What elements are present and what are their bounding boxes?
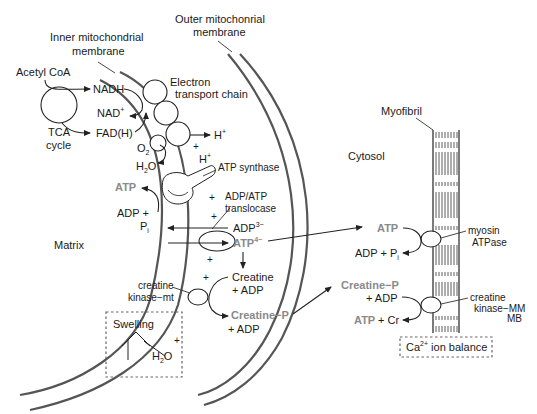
ck-mm-label-1: creatine <box>470 292 506 303</box>
atp-synthase <box>162 166 215 204</box>
o2-label: O2 <box>137 142 150 156</box>
creatine-kinase-mt <box>188 289 208 305</box>
plus-sign-2: + <box>211 211 217 222</box>
plus-sign-1: + <box>209 192 215 203</box>
plus-sign-0: + <box>193 141 199 152</box>
nadh-to-nad-arrow <box>124 89 143 116</box>
cytosol-creatine-p: Creatine−P <box>341 279 399 291</box>
creatine-kinase-mm <box>421 297 441 313</box>
atp-to-cytosol-arrow <box>268 227 362 241</box>
myosin-label-2: ATPase <box>472 237 507 248</box>
myosin-reaction-arrow <box>403 228 421 253</box>
ck-mt-label-1: creatine <box>138 280 174 291</box>
acetyl-coa-label: Acetyl CoA <box>16 66 71 78</box>
outer-membrane-label-2: membrane <box>193 26 246 38</box>
ck-mm-reaction-arrow <box>402 297 421 320</box>
cytosol-plus-adp: + ADP <box>366 292 398 304</box>
matrix-label: Matrix <box>54 239 84 251</box>
ck-mt-reaction-arrow <box>209 277 228 316</box>
h2o-label: H2O <box>136 160 157 174</box>
h-plus-2: H+ <box>199 152 211 165</box>
plus-adp-1: + ADP <box>232 284 264 296</box>
swelling-label: Swelling <box>113 318 154 330</box>
creatine-p-label: Creatine−P <box>231 309 289 321</box>
inner-membrane-label-1: Inner mitochondrial <box>50 31 144 43</box>
translocase-label-2: translocase <box>225 203 277 214</box>
cycle-label: cycle <box>46 139 71 151</box>
adp-pi-label: ADP + Pi <box>355 247 399 261</box>
outer-membrane-label-1: Outer mitochonrial <box>175 13 265 25</box>
atp-synthase-label: ATP synthase <box>218 162 280 173</box>
swelling-h2o: H2O <box>152 350 173 364</box>
myosin-atpase <box>421 231 441 247</box>
adp3-label: ADP3− <box>233 221 264 234</box>
etc-label-2: transport chain <box>175 88 248 100</box>
ck-mm-leader <box>441 298 468 304</box>
matrix-atp: ATP <box>115 181 136 193</box>
adp-atp-translocase <box>199 231 235 251</box>
ck-mt-label-2: kinase−mt <box>128 292 174 303</box>
plus-sign-5: + <box>174 335 180 346</box>
ck-mm-label-3: MB <box>507 313 522 324</box>
tca-cycle-circle <box>41 87 77 123</box>
nadh-label: NADH <box>93 83 124 95</box>
etc-label-1: Electron <box>170 76 210 88</box>
nad-label: NAD+ <box>97 106 124 119</box>
atp4-label: ATP4− <box>233 236 262 249</box>
outer-membrane-leader <box>218 41 232 52</box>
cytosol-atp: ATP <box>377 222 398 234</box>
fadh-label: FAD(H) <box>96 127 133 139</box>
myosin-leader <box>441 231 466 238</box>
plus-sign-3: + <box>207 254 213 265</box>
mitochondria-diagram: Inner mitochondrial membrane Outer mitoc… <box>0 0 537 414</box>
calcium-label: Ca2+ ion balance <box>406 340 487 353</box>
cytosol-atp-2: ATP <box>354 314 375 326</box>
cytosol-label: Cytosol <box>348 150 385 162</box>
myosin-label-1: myosin <box>468 225 500 236</box>
plus-sign-4: + <box>203 272 209 283</box>
myofibril-label: Myofibril <box>381 105 422 117</box>
acetyl-to-nadh-arrow <box>45 80 90 89</box>
plus-adp-2: + ADP <box>228 323 260 335</box>
pi-label: Pi <box>140 220 149 234</box>
inner-membrane-label-2: membrane <box>72 45 125 57</box>
h-plus-1: H+ <box>214 128 226 141</box>
inner-membrane-leader <box>98 62 115 73</box>
plus-cr-label: + Cr <box>378 314 399 326</box>
myofibril-leader <box>416 118 433 130</box>
translocase-label-1: ADP/ATP <box>225 191 267 202</box>
adp-plus-label: ADP + <box>117 207 149 219</box>
creatine-label: Creatine <box>232 271 274 283</box>
